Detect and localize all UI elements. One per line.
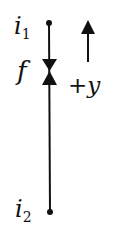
feature-label: f (17, 58, 27, 84)
direction-label: +y (68, 74, 100, 97)
edge-line (49, 23, 50, 212)
bottom-node-dot (47, 209, 53, 215)
direction-arrow-head-icon (81, 20, 95, 34)
top-node-dot (46, 20, 52, 26)
bowtie-lower-triangle-icon (42, 71, 57, 85)
bottom-node-label: i2 (15, 197, 32, 224)
bowtie-upper-triangle-icon (42, 59, 57, 71)
top-node-label: i1 (14, 14, 31, 41)
